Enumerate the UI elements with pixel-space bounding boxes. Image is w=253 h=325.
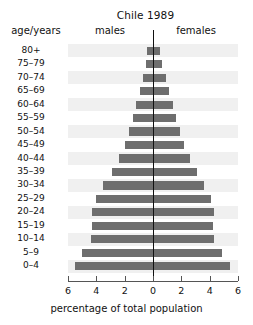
bar-males — [119, 154, 153, 162]
legend-males: males — [72, 25, 148, 36]
x-tick-mark — [238, 276, 239, 281]
x-tick-mark — [96, 276, 97, 281]
y-tick-label: 75–79 — [0, 58, 62, 68]
y-tick-label: 50–54 — [0, 126, 62, 136]
y-tick-label: 25–29 — [0, 193, 62, 203]
x-tick-mark — [210, 276, 211, 281]
x-tick-label: 6 — [58, 285, 78, 296]
bar-males — [125, 141, 153, 149]
center-axis-line — [153, 30, 154, 277]
y-tick-label: 40–44 — [0, 153, 62, 163]
bar-females — [153, 222, 213, 230]
bar-males — [92, 208, 153, 216]
x-tick-label: 6 — [228, 285, 248, 296]
bar-females — [153, 47, 160, 55]
x-tick-mark — [125, 276, 126, 281]
bar-males — [91, 235, 153, 243]
x-axis-line — [68, 281, 238, 282]
bar-females — [153, 168, 197, 176]
x-tick-mark — [153, 276, 154, 281]
x-tick-label: 0 — [143, 285, 163, 296]
x-axis-title: percentage of total population — [0, 303, 253, 314]
plot-area — [68, 44, 238, 273]
bar-females — [153, 141, 184, 149]
y-tick-label: 80+ — [0, 45, 62, 55]
bar-males — [103, 181, 153, 189]
x-tick-label: 4 — [200, 285, 220, 296]
y-tick-label: 20–24 — [0, 206, 62, 216]
bar-males — [96, 195, 153, 203]
bar-males — [112, 168, 153, 176]
chart-title-text: Chile 1989 — [79, 9, 174, 21]
x-tick-mark — [68, 276, 69, 281]
bar-females — [153, 235, 214, 243]
bar-males — [92, 222, 153, 230]
y-tick-label: 0–4 — [0, 260, 62, 270]
bar-females — [153, 195, 211, 203]
chart-title: Chile 1989 — [0, 9, 253, 21]
x-tick-label: 4 — [86, 285, 106, 296]
y-axis-title: age/years — [5, 25, 67, 36]
bar-males — [140, 87, 153, 95]
bar-females — [153, 74, 166, 82]
y-tick-label: 60–64 — [0, 99, 62, 109]
y-tick-label: 30–34 — [0, 179, 62, 189]
y-tick-label: 5–9 — [0, 247, 62, 257]
bar-females — [153, 127, 180, 135]
bar-males — [75, 262, 153, 270]
x-tick-label: 2 — [115, 285, 135, 296]
bar-females — [153, 60, 162, 68]
bar-females — [153, 87, 169, 95]
legend-females: females — [158, 25, 234, 36]
x-tick-mark — [181, 276, 182, 281]
bar-males — [133, 114, 153, 122]
y-tick-label: 70–74 — [0, 72, 62, 82]
bar-females — [153, 101, 173, 109]
y-tick-label: 15–19 — [0, 220, 62, 230]
bar-males — [129, 127, 153, 135]
bar-females — [153, 154, 190, 162]
x-tick-label: 2 — [171, 285, 191, 296]
bar-females — [153, 181, 204, 189]
y-tick-label: 65–69 — [0, 85, 62, 95]
bar-males — [136, 101, 153, 109]
population-pyramid-figure: Chile 1989 age/years males females 0–45–… — [0, 0, 253, 325]
bar-males — [82, 249, 153, 257]
y-tick-label: 10–14 — [0, 233, 62, 243]
y-tick-label: 35–39 — [0, 166, 62, 176]
y-tick-label: 55–59 — [0, 112, 62, 122]
bar-females — [153, 208, 214, 216]
bar-males — [143, 74, 153, 82]
y-tick-label: 45–49 — [0, 139, 62, 149]
bar-females — [153, 262, 230, 270]
bar-females — [153, 114, 176, 122]
bar-females — [153, 249, 222, 257]
